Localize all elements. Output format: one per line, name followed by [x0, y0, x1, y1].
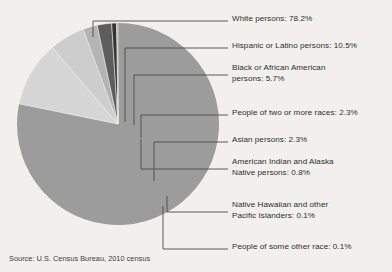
callout-label-twoplus: People of two or more races: 2.3% — [232, 108, 358, 119]
source-caption: Source: U.S. Census Bureau, 2010 census — [9, 254, 150, 263]
pie-slice-group: White persons: 78.2%Hispanic or Latino p… — [17, 23, 219, 225]
callout-label-white: White persons: 78.2% — [232, 14, 312, 25]
callout-label-asian: Asian persons: 2.3% — [232, 135, 307, 146]
pie-chart-page: White persons: 78.2%Hispanic or Latino p… — [0, 0, 392, 272]
callout-label-aian: American Indian and Alaska Native person… — [232, 157, 334, 178]
callout-label-nhpi: Native Hawaiian and other Pacific Island… — [232, 200, 328, 221]
callout-label-other: People of some other race: 0.1% — [232, 242, 351, 253]
callout-label-hispanic: Hispanic or Latino persons: 10.5% — [232, 41, 357, 52]
callout-label-black: Black or African American persons: 5.7% — [232, 63, 325, 84]
